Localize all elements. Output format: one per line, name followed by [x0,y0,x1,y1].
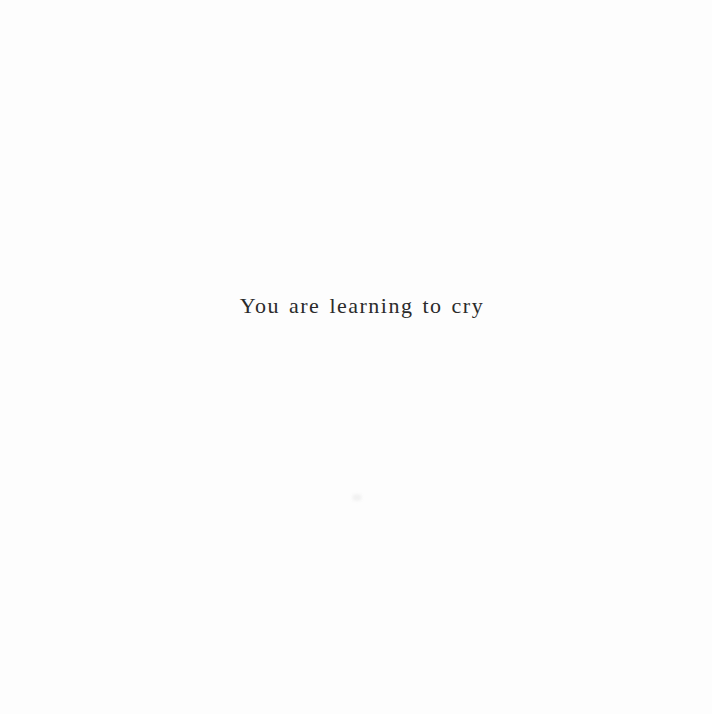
scanned-page: You are learning to cry [0,0,712,714]
page-text: You are learning to cry [240,293,484,319]
scan-smudge-artifact [352,494,362,501]
